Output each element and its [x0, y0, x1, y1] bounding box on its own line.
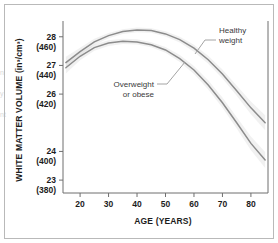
overweight-leader-line [157, 62, 185, 84]
x-tick-label-40: 40 [132, 199, 142, 209]
y-tick-label-27: 27 [47, 60, 57, 70]
x-tick-label-20: 20 [75, 199, 85, 209]
annotation-overweight-or-obese: Overweight or obese [114, 62, 185, 99]
y-tick-sublabel-26: (420) [36, 99, 56, 109]
white-matter-volume-chart: 2030405060708028(460)27(440)26(420)24(40… [0, 0, 278, 243]
y-tick-label-26: 26 [47, 89, 57, 99]
y-tick-sublabel-27: (440) [36, 70, 56, 80]
confidence-bands [66, 28, 265, 168]
y-axis-title: WHITE MATTER VOLUME (in³/cm³) [14, 38, 24, 182]
healthy-weight-label-line2: weight [218, 36, 243, 45]
overweight-label-line1: Overweight [114, 80, 155, 89]
x-tick-label-30: 30 [104, 199, 114, 209]
healthy-weight-label-line1: Healthy [219, 26, 246, 35]
y-tick-sublabel-23: (380) [36, 185, 56, 195]
figure-container: nynt 2030405060708028(460)27(440)26(420)… [0, 0, 278, 243]
x-tick-label-70: 70 [218, 199, 228, 209]
y-tick-sublabel-24: (400) [36, 156, 56, 166]
y-tick-label-24: 24 [47, 146, 57, 156]
overweight-label-line2: or obese [123, 90, 155, 99]
y-tick-sublabel-28: (460) [36, 42, 56, 52]
x-tick-label-80: 80 [246, 199, 256, 209]
annotation-healthy-weight: Healthy weight [195, 26, 246, 54]
y-tick-label-28: 28 [47, 32, 57, 42]
confidence-band-1 [66, 39, 265, 168]
x-axis-title: AGE (YEARS) [134, 216, 191, 226]
x-tick-label-50: 50 [161, 199, 171, 209]
y-tick-label-23: 23 [47, 175, 57, 185]
curve-overweight-or-obese [66, 41, 265, 160]
x-tick-label-60: 60 [189, 199, 199, 209]
